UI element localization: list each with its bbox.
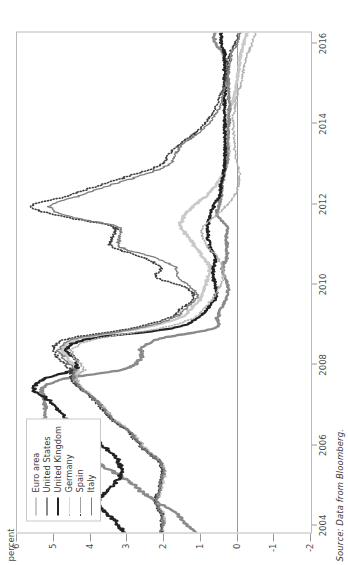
legend-swatch-italy [91,497,92,515]
legend-swatch-spain [80,497,81,515]
legend-label-united-states: United States [42,436,52,492]
legend-swatch-germany [69,497,70,515]
legend-swatch-euro-area [35,497,37,515]
legend-label-germany: Germany [64,454,74,492]
y-tick-label: -1 [268,543,278,565]
legend-item-euro-area: Euro area [31,425,41,515]
y-tick-label: 1 [195,543,205,565]
y-tick [53,533,54,541]
legend-item-italy: Italy [86,425,96,515]
y-tick-label: 3 [121,543,131,565]
y-tick [90,533,91,541]
y-tick-label: -2 [305,543,315,565]
y-tick [200,533,201,541]
legend-label-spain: Spain [75,469,85,492]
y-tick-label: 4 [85,543,95,565]
legend-item-spain: Spain [75,425,85,515]
x-tick-label: 2006 [318,434,328,456]
legend-swatch-united-kingdom [57,497,59,515]
y-tick-label: 2 [158,543,168,565]
y-tick [310,533,311,541]
x-tick-label: 2012 [318,193,328,215]
legend-item-united-kingdom: United Kingdom [53,425,63,515]
source-note: Source: Data from Bloomberg. [335,428,345,561]
figure: percent 6543210-1-2200420062008201020122… [0,0,348,565]
y-tick [16,533,17,541]
y-tick-label: 0 [232,543,242,565]
legend-item-germany: Germany [64,425,74,515]
y-tick-label: 6 [11,543,21,565]
legend-item-united-states: United States [42,425,52,515]
x-tick-label: 2004 [318,514,328,536]
x-tick-label: 2008 [318,354,328,376]
y-tick [163,533,164,541]
legend-label-united-kingdom: United Kingdom [53,425,63,492]
legend-label-italy: Italy [86,474,96,492]
y-tick [126,533,127,541]
y-tick [273,533,274,541]
y-tick-label: 5 [48,543,58,565]
legend-swatch-united-states [46,497,48,515]
x-tick-label: 2016 [318,32,328,54]
chart-stage: percent 6543210-1-2200420062008201020122… [0,0,348,565]
legend-label-euro-area: Euro area [31,452,41,492]
x-tick-label: 2010 [318,273,328,295]
x-tick-label: 2014 [318,113,328,135]
legend: Euro area United States United Kingdom G… [26,418,101,521]
y-tick [237,533,238,541]
